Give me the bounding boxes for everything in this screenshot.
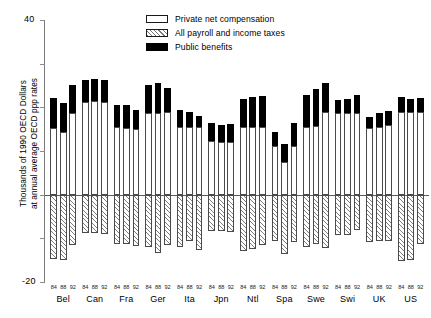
bar-segment-private-compensation <box>335 113 342 194</box>
bar-column <box>398 20 405 282</box>
bar-segment-private-compensation <box>114 127 121 194</box>
bar-segment-taxes <box>313 195 320 244</box>
bar-segment-public-benefits <box>344 99 351 113</box>
bar-segment-private-compensation <box>259 127 266 195</box>
y-axis-tick <box>40 20 45 21</box>
bar-segment-public-benefits <box>133 110 140 129</box>
bar-column <box>114 20 121 282</box>
bar-segment-private-compensation <box>133 129 140 195</box>
bar-segment-public-benefits <box>366 117 373 128</box>
bar-column <box>69 20 76 282</box>
y-tick-label-max: 40 <box>24 14 34 24</box>
bar-column <box>208 20 215 282</box>
bar-column <box>164 20 171 282</box>
bar-segment-taxes <box>69 195 76 246</box>
bar-column <box>145 20 152 282</box>
bar-segment-taxes <box>196 195 203 250</box>
x-axis-country-label-fra: Fra <box>112 294 140 305</box>
bar-segment-public-benefits <box>114 105 121 128</box>
bar-segment-private-compensation <box>385 125 392 195</box>
plot-area <box>45 20 429 282</box>
bar-column <box>417 20 424 282</box>
bar-column <box>313 20 320 282</box>
bar-segment-taxes <box>82 195 89 233</box>
x-axis-country-labels: BelCanFraGerItaJpnNtlSpaSweSwiUKUS <box>45 294 429 308</box>
bar-column <box>322 20 329 282</box>
bar-column <box>50 20 57 282</box>
x-axis-year-label: 92 <box>256 284 269 291</box>
bar-segment-taxes <box>398 195 405 261</box>
x-axis-country-label-jpn: Jpn <box>207 294 235 305</box>
bar-column <box>259 20 266 282</box>
bar-segment-taxes <box>376 195 383 242</box>
bar-segment-public-benefits <box>407 99 414 112</box>
x-axis-country-label-swe: Swe <box>302 294 330 305</box>
bar-segment-taxes <box>145 195 152 248</box>
bar-segment-taxes <box>272 195 279 241</box>
x-axis-year-label: 92 <box>414 284 427 291</box>
bar-segment-private-compensation <box>291 146 298 195</box>
bar-column <box>385 20 392 282</box>
bar-column <box>272 20 279 282</box>
bar-segment-taxes <box>186 195 193 241</box>
bar-segment-taxes <box>155 195 162 254</box>
bar-segment-private-compensation <box>82 102 89 195</box>
bar-segment-taxes <box>50 195 57 260</box>
bar-segment-public-benefits <box>281 144 288 162</box>
bar-column <box>354 20 361 282</box>
bar-segment-taxes <box>114 195 121 244</box>
bar-segment-taxes <box>259 195 266 246</box>
bar-column <box>366 20 373 282</box>
bar-segment-public-benefits <box>82 80 89 102</box>
y-axis-tick <box>40 64 45 65</box>
bar-segment-private-compensation <box>196 127 203 194</box>
x-axis-country-label-spa: Spa <box>270 294 298 305</box>
bar-segment-public-benefits <box>398 97 405 112</box>
bar-segment-taxes <box>354 195 361 231</box>
bar-segment-public-benefits <box>123 105 130 128</box>
bar-segment-taxes <box>417 195 424 244</box>
bar-segment-taxes <box>303 195 310 247</box>
x-axis-country-label-us: US <box>397 294 425 305</box>
x-axis-country-label-bel: Bel <box>49 294 77 305</box>
bar-column <box>281 20 288 282</box>
bar-segment-taxes <box>291 195 298 242</box>
bar-segment-private-compensation <box>208 141 215 195</box>
bar-segment-public-benefits <box>196 116 203 127</box>
bar-segment-public-benefits <box>335 100 342 114</box>
bar-column <box>186 20 193 282</box>
bar-segment-public-benefits <box>155 83 162 112</box>
bar-segment-private-compensation <box>366 128 373 195</box>
x-axis-year-label: 92 <box>382 284 395 291</box>
bar-segment-public-benefits <box>259 96 266 127</box>
bar-segment-public-benefits <box>291 123 298 146</box>
y-axis-tick <box>40 238 45 239</box>
bar-segment-public-benefits <box>385 111 392 125</box>
bar-column <box>218 20 225 282</box>
x-axis-year-label: 92 <box>66 284 79 291</box>
bar-segment-taxes <box>335 195 342 236</box>
bar-segment-public-benefits <box>164 88 171 112</box>
x-axis-country-label-swi: Swi <box>333 294 361 305</box>
bar-segment-public-benefits <box>417 98 424 112</box>
bar-segment-taxes <box>322 195 329 249</box>
bar-column <box>227 20 234 282</box>
bar-segment-private-compensation <box>164 112 171 195</box>
bar-segment-taxes <box>91 195 98 233</box>
bar-segment-taxes <box>344 195 351 235</box>
bar-segment-public-benefits <box>240 99 247 126</box>
y-axis-tick <box>40 107 45 108</box>
bar-segment-taxes <box>60 195 67 260</box>
bar-segment-private-compensation <box>218 142 225 195</box>
x-axis-year-label: 92 <box>287 284 300 291</box>
bar-segment-taxes <box>281 195 288 254</box>
x-axis-year-label: 92 <box>192 284 205 291</box>
x-axis-country-label-can: Can <box>81 294 109 305</box>
bar-segment-private-compensation <box>186 127 193 195</box>
bar-segment-public-benefits <box>101 80 108 101</box>
x-axis-country-label-ntl: Ntl <box>239 294 267 305</box>
y-axis-title: Thousands of 1990 OECD Dollars at annual… <box>19 29 40 259</box>
x-axis-year-label: 92 <box>319 284 332 291</box>
y-axis-tick <box>40 195 45 196</box>
bar-segment-public-benefits <box>145 85 152 113</box>
